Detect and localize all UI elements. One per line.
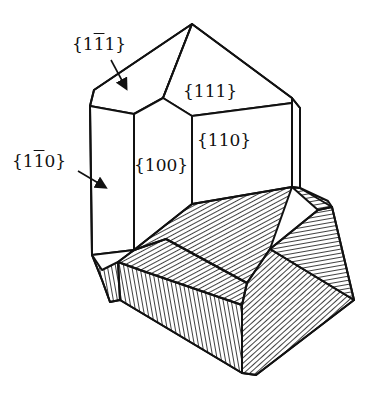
label-part: {110} (197, 130, 251, 150)
label-part: {1 (12, 151, 34, 171)
label-face-100: {100} (134, 157, 188, 174)
crystal-diagram (0, 0, 377, 394)
hatched-top-right-facet (292, 187, 332, 210)
face-1-1bar-0-polygon (90, 106, 134, 255)
label-face-110: {110} (197, 132, 251, 149)
label-part: 0} (44, 151, 66, 171)
label-face-1-1bar-1: {111} (72, 36, 126, 53)
label-bar-digit: 1 (94, 34, 105, 54)
label-part: {100} (134, 155, 188, 175)
label-face-111: {111} (183, 83, 237, 100)
label-part: 1} (104, 34, 126, 54)
label-part: {111} (183, 81, 237, 101)
face-right-narrow-polygon (292, 98, 300, 188)
label-bar-digit: 1 (34, 151, 45, 171)
label-face-1-1bar-0: {110} (12, 153, 66, 170)
label-part: {1 (72, 34, 94, 54)
